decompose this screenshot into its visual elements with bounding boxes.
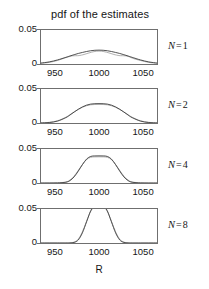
ytick-label-bottom-p4: 0 — [32, 236, 37, 247]
x-axis-title: R — [40, 264, 158, 275]
xtick-labels-p4: 950 1000 1050 — [40, 246, 158, 258]
series-n2-0 — [41, 104, 157, 123]
xtick-labels-p1: 950 1000 1050 — [40, 67, 158, 79]
ytick-label-bottom-p3: 0 — [32, 176, 37, 187]
figure-root: pdf of the estimates 0.05 0 950 1000 105… — [0, 0, 209, 289]
xtick-1050-p1: 1050 — [133, 67, 154, 78]
plot-area-n1 — [40, 29, 158, 65]
n-equals-p1: = — [175, 40, 183, 51]
ytick-label-top-p4: 0.05 — [19, 202, 38, 213]
n-value-p3: 4 — [183, 159, 188, 170]
ytick-label-top-p2: 0.05 — [19, 82, 38, 93]
xtick-1050-p2: 1050 — [133, 126, 154, 137]
n-symbol-p2: N — [168, 99, 175, 110]
xtick-950-p4: 950 — [47, 246, 63, 257]
ytick-label-bottom-p2: 0 — [32, 116, 37, 127]
panel-label-n2: N=2 — [168, 99, 188, 110]
xtick-1000-p3: 1000 — [88, 186, 109, 197]
xtick-950-p1: 950 — [47, 67, 63, 78]
n-symbol-p3: N — [168, 159, 175, 170]
series-n4-0 — [41, 156, 157, 183]
curves-n8 — [41, 209, 157, 243]
plot-area-n4 — [40, 148, 158, 184]
xtick-1000-p2: 1000 — [88, 126, 109, 137]
xtick-1000-p4: 1000 — [88, 246, 109, 257]
chart-title: pdf of the estimates — [0, 8, 200, 20]
series-n8-1 — [41, 209, 157, 243]
series-n2-1 — [41, 104, 157, 122]
n-symbol-p1: N — [168, 40, 175, 51]
plot-area-n8 — [40, 208, 158, 244]
series-n1-0 — [41, 50, 157, 63]
xtick-1000-p1: 1000 — [88, 67, 109, 78]
curves-n2 — [41, 89, 157, 123]
n-equals-p2: = — [175, 99, 183, 110]
xtick-950-p3: 950 — [47, 186, 63, 197]
n-value-p2: 2 — [183, 99, 188, 110]
series-n1-1 — [41, 51, 157, 63]
curves-n1 — [41, 30, 157, 64]
n-equals-p4: = — [175, 219, 183, 230]
ytick-label-bottom-p1: 0 — [32, 57, 37, 68]
curve-group-n8 — [41, 209, 157, 243]
n-value-p1: 1 — [183, 40, 188, 51]
panel-label-n4: N=4 — [168, 159, 188, 170]
xtick-1050-p3: 1050 — [133, 186, 154, 197]
series-n4-1 — [41, 157, 157, 183]
curve-group-n1 — [41, 50, 157, 63]
plot-area-n2 — [40, 88, 158, 124]
ytick-label-top-p3: 0.05 — [19, 142, 38, 153]
curves-n4 — [41, 149, 157, 183]
n-equals-p3: = — [175, 159, 183, 170]
curve-group-n2 — [41, 104, 157, 123]
curve-group-n4 — [41, 156, 157, 183]
ytick-label-top-p1: 0.05 — [19, 23, 38, 34]
xtick-950-p2: 950 — [47, 126, 63, 137]
panel-label-n1: N=1 — [168, 40, 188, 51]
xtick-labels-p3: 950 1000 1050 — [40, 186, 158, 198]
n-symbol-p4: N — [168, 219, 175, 230]
series-n8-0 — [41, 209, 157, 243]
panel-label-n8: N=8 — [168, 219, 188, 230]
n-value-p4: 8 — [183, 219, 188, 230]
xtick-labels-p2: 950 1000 1050 — [40, 126, 158, 138]
xtick-1050-p4: 1050 — [133, 246, 154, 257]
